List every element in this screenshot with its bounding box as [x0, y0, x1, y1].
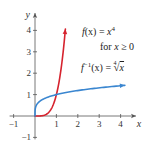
annotation-inverse: f−1(x) = 4√x — [81, 60, 124, 73]
y-tick-label: 3 — [27, 47, 32, 57]
y-tick-label: 4 — [27, 25, 32, 35]
inv-var: x — [120, 62, 124, 73]
x-tick-label: 3 — [97, 119, 102, 129]
x-tick-label: 1 — [54, 119, 59, 129]
function-inverse-plot: −11234−11234xy — [0, 0, 147, 147]
dom-for: for — [100, 41, 114, 52]
dom-rest: ≥ 0 — [119, 41, 135, 52]
annotation-domain: for x ≥ 0 — [100, 42, 134, 52]
curve-f — [35, 29, 65, 116]
y-tick-label: 1 — [27, 90, 32, 100]
f-exponent: 4 — [112, 25, 116, 33]
x-tick-label: 2 — [76, 119, 81, 129]
annotation-f: f(x) = x4 — [82, 26, 115, 37]
y-tick-label: 2 — [27, 68, 32, 78]
x-axis-label: x — [136, 118, 142, 129]
inv-arg: (x) = — [91, 62, 113, 73]
x-tick-label: 4 — [118, 119, 123, 129]
axes: −11234−11234xy — [9, 9, 142, 142]
f-arg: (x) = — [85, 26, 107, 37]
y-axis-label: y — [25, 9, 31, 20]
x-tick-label: −1 — [9, 119, 19, 129]
curve-f-inverse — [35, 85, 125, 116]
y-tick-label: −1 — [21, 132, 31, 142]
arrowhead-icon — [120, 84, 125, 89]
